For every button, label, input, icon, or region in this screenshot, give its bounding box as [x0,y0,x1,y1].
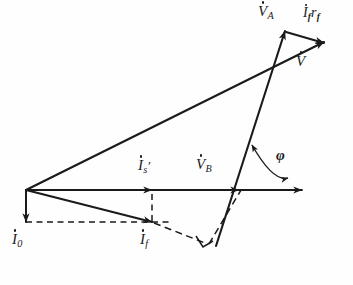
phasor-diagram-canvas [0,0,353,285]
label-v-a: VA [258,4,274,21]
label-phi: φ [276,148,285,163]
label-v-b: VB [196,157,212,174]
label-if: If [140,232,148,249]
vector-v [26,42,324,190]
phasor-diagram-figure: VA Ifrf V Is′ VB φ I0 If [0,0,353,285]
label-v: V [296,54,305,69]
label-is-prime: Is′ [138,158,150,175]
construction-if-to-corner [154,223,205,243]
label-if-rf: Ifrf [303,6,320,23]
label-i0: I0 [12,232,22,249]
vector-if [26,190,152,222]
vector-if-rf [286,32,324,43]
